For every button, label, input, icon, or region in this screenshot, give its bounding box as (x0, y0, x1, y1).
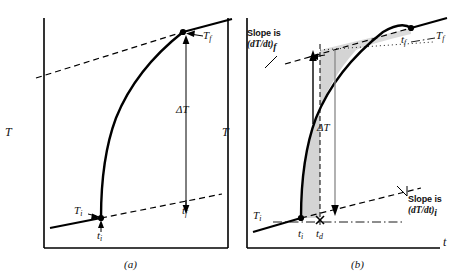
annotation-slope-initial: Slope is (dT/dt)i (408, 194, 442, 219)
ti-tick-arrowhead-a (98, 220, 104, 228)
caption-b: (b) (351, 258, 364, 270)
tf-level-connector-b (411, 38, 435, 42)
initial-drift-solid-a (50, 218, 101, 228)
slope-final-line1: Slope is (247, 28, 281, 39)
slope-initial-line1: Slope is (408, 194, 442, 205)
shaded-region-b (301, 50, 356, 218)
slope-final-leader-b (265, 56, 277, 68)
slope-initial-leader-b (397, 186, 407, 196)
label-t-final-b: tf (401, 34, 406, 47)
caption-a: (a) (124, 258, 137, 270)
label-t-d-b: td (316, 228, 323, 241)
label-delta-T-b: ΔT (317, 122, 330, 133)
label-t-initial-a: ti (97, 230, 102, 243)
point-final-a (180, 29, 186, 35)
y-axis-label-b: T (222, 126, 229, 138)
delta-t-arrowhead-up-a (183, 35, 190, 44)
label-T-final-b: Tf (436, 30, 444, 43)
panel-a: T Tf Ti ti tf ΔT (a) (0, 0, 237, 280)
point-initial-b (298, 215, 304, 221)
initial-drift-dashed-a (101, 194, 222, 218)
label-t-initial-b: ti (298, 228, 303, 241)
label-T-initial-b: Ti (253, 210, 261, 223)
x-axis-label-b: t (443, 236, 446, 248)
label-t-final-a: tf (182, 205, 187, 218)
figure-container: T Tf Ti ti tf ΔT (a) (0, 0, 473, 280)
final-drift-dashed-a (36, 32, 183, 78)
annotation-slope-final: Slope is (dT/dt)f (247, 28, 281, 53)
temperature-curve-a (101, 32, 183, 218)
label-T-final-a: Tf (203, 30, 211, 43)
y-axis-label-a: T (5, 126, 12, 138)
slope-initial-line2: (dT/dt)i (408, 205, 442, 219)
final-drift-solid-b (411, 18, 447, 28)
point-final-b (408, 25, 414, 31)
panel-b: T t Slope is (dT/dt)f Slope is (dT/dt)i … (225, 0, 473, 280)
label-T-initial-a: Ti (74, 205, 82, 218)
label-delta-T-a: ΔT (176, 104, 189, 115)
panel-a-plot (0, 0, 237, 280)
slope-final-line2: (dT/dt)f (247, 39, 281, 53)
